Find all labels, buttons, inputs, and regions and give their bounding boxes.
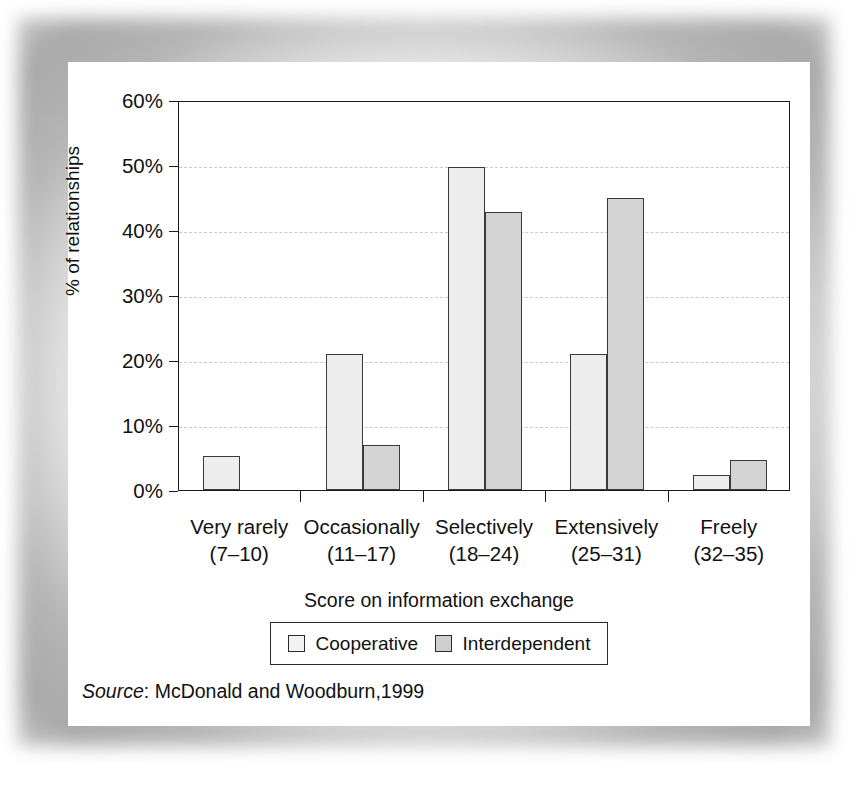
- plot-area: [178, 101, 790, 491]
- y-axis-tick-label: 30%: [73, 284, 163, 308]
- x-axis-title: Score on information exchange: [68, 589, 810, 612]
- x-axis-category-label: Freely(32–35): [648, 513, 810, 568]
- x-category-name: Freely: [700, 515, 757, 538]
- x-category-name: Extensively: [555, 515, 659, 538]
- source-note: Source: McDonald and Woodburn,1999: [82, 680, 424, 703]
- x-category-name: Selectively: [435, 515, 533, 538]
- figure-card: % of relationships 0%10%20%30%40%50%60%V…: [68, 62, 810, 726]
- source-separator: :: [144, 680, 155, 702]
- chart-legend: Cooperative Interdependent: [270, 622, 608, 665]
- x-axis-tick: [545, 491, 546, 502]
- y-axis-tick-label: 20%: [73, 349, 163, 373]
- legend-label-interdependent: Interdependent: [463, 633, 591, 655]
- y-axis-tick: [169, 231, 178, 232]
- legend-swatch-cooperative-icon: [288, 635, 305, 652]
- bar-selectively-cooperative: [448, 167, 485, 490]
- y-axis-tick-label: 0%: [73, 479, 163, 503]
- legend-entry-cooperative: Cooperative: [288, 633, 418, 655]
- bar-occasionally-interdependent: [363, 445, 400, 491]
- source-label: Source: [82, 680, 144, 702]
- figure-page: % of relationships 0%10%20%30%40%50%60%V…: [0, 0, 868, 788]
- y-axis-tick-label: 10%: [73, 414, 163, 438]
- y-axis-tick-label: 50%: [73, 154, 163, 178]
- y-axis-tick-label: 40%: [73, 219, 163, 243]
- y-axis-tick: [169, 166, 178, 167]
- bar-very-rarely-cooperative: [203, 456, 240, 490]
- bar-extensively-interdependent: [607, 198, 644, 491]
- x-axis-tick: [423, 491, 424, 502]
- y-axis-tick: [169, 101, 178, 102]
- y-axis-tick: [169, 491, 178, 492]
- source-text: McDonald and Woodburn,1999: [155, 680, 425, 702]
- legend-entry-interdependent: Interdependent: [435, 633, 591, 655]
- x-category-name: Very rarely: [190, 515, 288, 538]
- bar-extensively-cooperative: [570, 354, 607, 491]
- bar-freely-interdependent: [730, 460, 767, 490]
- bar-occasionally-cooperative: [326, 354, 363, 491]
- y-axis-tick-label: 60%: [73, 89, 163, 113]
- y-axis-tick: [169, 426, 178, 427]
- x-category-range: (32–35): [648, 540, 810, 567]
- legend-swatch-interdependent-icon: [435, 635, 452, 652]
- x-axis-tick: [300, 491, 301, 502]
- y-axis-tick: [169, 361, 178, 362]
- legend-label-cooperative: Cooperative: [316, 633, 418, 655]
- y-axis-tick: [169, 296, 178, 297]
- bar-freely-cooperative: [693, 475, 730, 490]
- x-axis-tick: [668, 491, 669, 502]
- bar-selectively-interdependent: [485, 212, 522, 490]
